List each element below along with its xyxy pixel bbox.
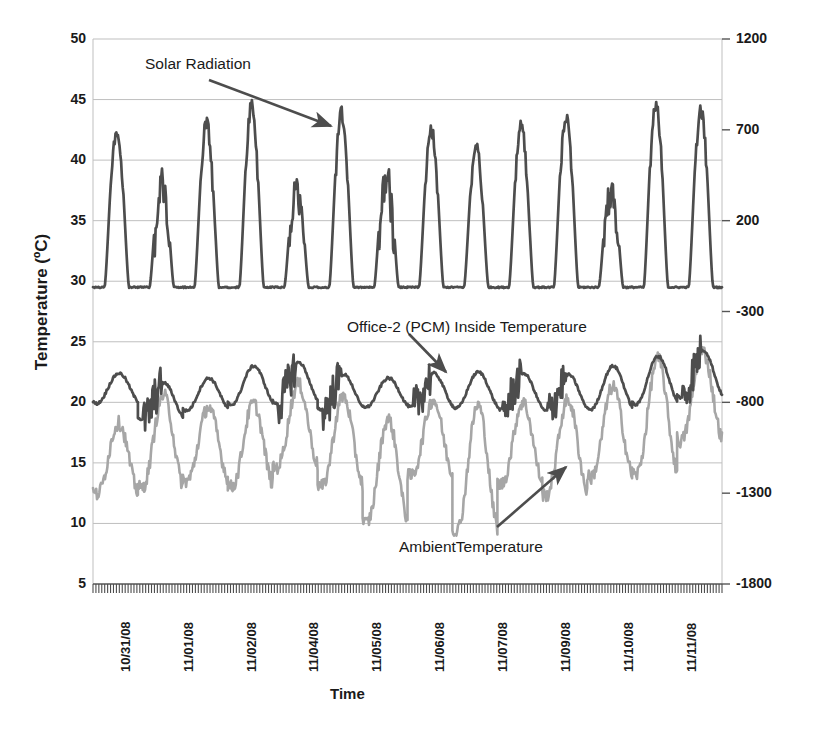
annotation-arrows bbox=[209, 80, 566, 527]
x-tick-marks bbox=[93, 584, 722, 593]
x-axis-tick-label: 11/07/08 bbox=[495, 622, 510, 672]
annotation-ambient-temperature: AmbientTemperature bbox=[399, 538, 543, 556]
y-axis-left-tick-label: 15 bbox=[50, 454, 86, 470]
y-axis-right-tick-label: 1200 bbox=[736, 30, 792, 46]
y-axis-right-tick-label: 700 bbox=[736, 121, 792, 137]
y-axis-right-tick-label: -800 bbox=[736, 393, 792, 409]
y-axis-right-tick-label: 200 bbox=[736, 212, 792, 228]
y-axis-left-title: Temperature (ºC) bbox=[32, 187, 52, 417]
inside-temperature-arrow bbox=[409, 334, 446, 372]
y-axis-left-tick-label: 5 bbox=[50, 575, 86, 591]
x-axis-tick-label: 11/02/08 bbox=[244, 622, 259, 672]
x-axis-tick-label: 11/05/08 bbox=[369, 622, 384, 672]
inside-temperature-line bbox=[93, 336, 722, 431]
y-axis-left-tick-label: 50 bbox=[50, 30, 86, 46]
y-axis-left-tick-label: 35 bbox=[50, 212, 86, 228]
annotation-solar-radiation: Solar Radiation bbox=[145, 55, 251, 73]
ambient-temperature-line bbox=[93, 347, 722, 535]
axis-lines bbox=[93, 39, 730, 584]
x-axis-tick-label: 10/31/08 bbox=[118, 621, 133, 672]
chart-figure: Temperature (ºC) Solar Radiation (W /sqr… bbox=[0, 0, 835, 731]
x-axis-tick-label: 11/04/08 bbox=[306, 622, 321, 672]
y-axis-right-tick-label: -300 bbox=[736, 303, 792, 319]
y-axis-right-tick-label: -1800 bbox=[736, 575, 792, 591]
annotation-office-2-inside-temperature: Office-2 (PCM) Inside Temperature bbox=[347, 318, 587, 336]
x-axis-tick-label: 11/01/08 bbox=[181, 622, 196, 672]
y-axis-left-tick-label: 45 bbox=[50, 91, 86, 107]
y-axis-left-tick-label: 40 bbox=[50, 151, 86, 167]
y-axis-left-tick-label: 25 bbox=[50, 333, 86, 349]
x-axis-tick-label: 11/09/08 bbox=[558, 622, 573, 672]
x-axis-tick-label: 11/11/08 bbox=[684, 623, 699, 672]
solar-radiation-line bbox=[93, 100, 722, 288]
y-axis-left-tick-label: 20 bbox=[50, 393, 86, 409]
y-axis-left-tick-label: 30 bbox=[50, 272, 86, 288]
x-axis-tick-label: 11/10/08 bbox=[621, 622, 636, 672]
solar-radiation-arrow bbox=[209, 80, 331, 126]
y-axis-left-tick-label: 10 bbox=[50, 514, 86, 530]
x-axis-tick-label: 11/06/08 bbox=[432, 622, 447, 672]
x-axis-title: Time bbox=[330, 685, 365, 702]
y-axis-right-tick-label: -1300 bbox=[736, 484, 792, 500]
